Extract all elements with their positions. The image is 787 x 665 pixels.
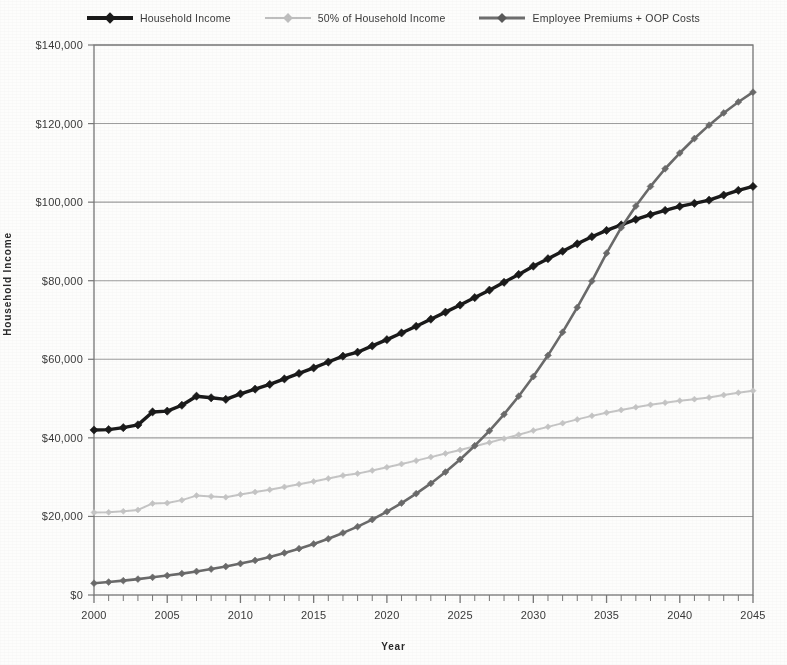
y-axis-title: Household Income: [2, 232, 20, 336]
series-marker: [750, 388, 756, 394]
series-marker: [222, 563, 229, 570]
x-axis-ticks: [94, 595, 753, 603]
series-marker: [105, 426, 113, 434]
series-marker: [120, 508, 126, 514]
series-marker: [311, 478, 317, 484]
legend-swatch-half-household-income: [265, 12, 311, 24]
series-marker: [530, 428, 536, 434]
legend-item-half-household-income: 50% of Household Income: [265, 12, 446, 24]
x-axis-tick-label: 2015: [301, 609, 326, 621]
chart-container: Household Income 50% of Household Income…: [0, 0, 787, 665]
series-marker: [207, 394, 215, 402]
y-axis-tick-label: $40,000: [42, 432, 83, 444]
series-marker: [105, 579, 112, 586]
plot-frame: [94, 45, 753, 595]
series-marker: [486, 440, 492, 446]
series-marker: [150, 500, 156, 506]
series-50-of-household-income: [91, 388, 756, 516]
series-line: [94, 186, 753, 430]
legend-swatch-employee-premiums: [479, 12, 525, 24]
x-axis-tick-label: 2030: [521, 609, 546, 621]
series-marker: [647, 402, 653, 408]
x-axis-title: Year: [0, 641, 787, 652]
series-marker: [618, 407, 624, 413]
series-marker: [325, 535, 332, 542]
x-axis-tick-label: 2045: [740, 609, 765, 621]
series-marker: [574, 416, 580, 422]
chart-legend: Household Income 50% of Household Income…: [0, 6, 787, 30]
series-marker: [91, 580, 98, 587]
data-series-layer: [90, 89, 757, 587]
series-marker: [428, 454, 434, 460]
y-axis-tick-label: $20,000: [42, 510, 83, 522]
series-marker: [91, 510, 97, 516]
y-axis-tick-label: $60,000: [42, 353, 83, 365]
series-marker: [164, 500, 170, 506]
series-marker: [721, 392, 727, 398]
x-axis-tick-labels: 2000200520102015202020252030203520402045: [81, 609, 765, 621]
legend-label-half-household-income: 50% of Household Income: [318, 12, 446, 24]
series-marker: [208, 566, 215, 573]
x-axis-tick-label: 2020: [374, 609, 399, 621]
series-marker: [237, 491, 243, 497]
series-marker: [633, 404, 639, 410]
x-axis-tick-label: 2035: [594, 609, 619, 621]
x-axis-tick-label: 2000: [81, 609, 106, 621]
series-marker: [252, 557, 259, 564]
series-marker: [194, 493, 200, 499]
series-marker: [661, 206, 669, 214]
series-marker: [296, 545, 303, 552]
chart-plot-area: $0$20,000$40,000$60,000$80,000$100,000$1…: [0, 0, 787, 665]
series-marker: [735, 390, 741, 396]
plot-border: [94, 45, 753, 595]
series-marker: [691, 396, 697, 402]
series-marker: [720, 191, 728, 199]
legend-swatch-household-income: [87, 12, 133, 24]
y-axis-tick-label: $140,000: [36, 39, 83, 51]
series-marker: [281, 550, 288, 557]
series-marker: [734, 186, 742, 194]
series-marker: [662, 400, 668, 406]
y-axis-tick-label: $0: [70, 589, 83, 601]
legend-item-household-income: Household Income: [87, 12, 231, 24]
series-marker: [690, 199, 698, 207]
legend-label-employee-premiums: Employee Premiums + OOP Costs: [532, 12, 700, 24]
x-axis-tick-label: 2005: [155, 609, 180, 621]
series-household-income: [90, 182, 757, 434]
series-marker: [149, 574, 156, 581]
x-axis-tick-label: 2040: [667, 609, 692, 621]
series-marker: [646, 211, 654, 219]
series-marker: [442, 451, 448, 457]
legend-item-employee-premiums: Employee Premiums + OOP Costs: [479, 12, 700, 24]
series-marker: [399, 461, 405, 467]
series-marker: [193, 568, 200, 575]
series-marker: [589, 413, 595, 419]
series-marker: [90, 426, 98, 434]
series-marker: [106, 509, 112, 515]
series-marker: [179, 497, 185, 503]
series-marker: [545, 424, 551, 430]
series-marker: [384, 464, 390, 470]
y-axis-tick-labels: $0$20,000$40,000$60,000$80,000$100,000$1…: [36, 39, 83, 601]
series-marker: [135, 507, 141, 513]
series-marker: [266, 553, 273, 560]
series-marker: [413, 458, 419, 464]
series-marker: [340, 473, 346, 479]
series-marker: [706, 395, 712, 401]
x-axis-tick-label: 2010: [228, 609, 253, 621]
series-line: [94, 92, 753, 583]
series-marker: [208, 493, 214, 499]
series-marker: [516, 432, 522, 438]
gridlines: [94, 45, 753, 516]
series-marker: [267, 487, 273, 493]
y-axis-tick-label: $80,000: [42, 275, 83, 287]
series-marker: [237, 560, 244, 567]
series-marker: [355, 471, 361, 477]
series-marker: [676, 202, 684, 210]
series-employee-premiums-oop-costs: [91, 89, 757, 587]
series-marker: [325, 476, 331, 482]
series-marker: [705, 196, 713, 204]
series-marker: [369, 467, 375, 473]
series-marker: [178, 570, 185, 577]
series-marker: [749, 182, 757, 190]
